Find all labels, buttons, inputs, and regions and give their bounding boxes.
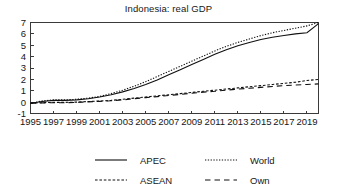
series-line-world — [31, 23, 319, 104]
x-tick-label: 2011 — [205, 116, 225, 127]
legend-label-world: World — [250, 155, 275, 166]
y-tick-label: 7 — [21, 17, 26, 28]
y-tick-label: 4 — [21, 51, 26, 62]
y-tick-label: 3 — [21, 62, 26, 73]
x-tick-label: 2015 — [250, 116, 271, 127]
x-tick-label: 2003 — [112, 116, 133, 127]
y-axis-tick-labels: 76543210-1 — [18, 17, 26, 119]
x-tick-label: 1997 — [43, 116, 64, 127]
x-tick-label: 2019 — [296, 116, 317, 127]
chart-figure: Indonesia: real GDP 76543210-1 199519971… — [0, 0, 337, 196]
x-tick-label: 2013 — [227, 116, 248, 127]
x-tick-label: 2007 — [158, 116, 179, 127]
x-tick-label: 1995 — [20, 116, 41, 127]
data-series-group — [31, 23, 319, 104]
y-tick-label: 5 — [21, 40, 26, 51]
x-tick-label: 2017 — [273, 116, 294, 127]
y-tick-label: 6 — [21, 28, 26, 39]
x-axis-tick-labels: 1995199719992001200320052007200920112013… — [20, 116, 318, 127]
x-tick-label: 2001 — [89, 116, 110, 127]
x-tick-label: 1999 — [66, 116, 87, 127]
chart-legend: APECWorldASEANOwn — [95, 155, 275, 186]
x-tick-label: 2009 — [181, 116, 202, 127]
legend-label-apec: APEC — [140, 155, 166, 166]
x-tick-label: 2005 — [135, 116, 156, 127]
chart-plot-area: 76543210-1 19951997199920012003200520072… — [0, 0, 337, 196]
y-tick-label: 2 — [21, 74, 26, 85]
legend-label-own: Own — [250, 175, 270, 186]
y-tick-label: 1 — [21, 85, 26, 96]
legend-label-asean: ASEAN — [140, 175, 172, 186]
y-tick-label: 0 — [21, 97, 26, 108]
series-line-apec — [31, 24, 319, 104]
